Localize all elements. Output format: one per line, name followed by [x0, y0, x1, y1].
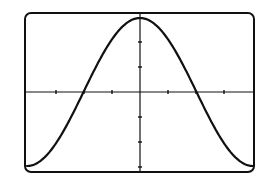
graph-screen [0, 0, 265, 180]
